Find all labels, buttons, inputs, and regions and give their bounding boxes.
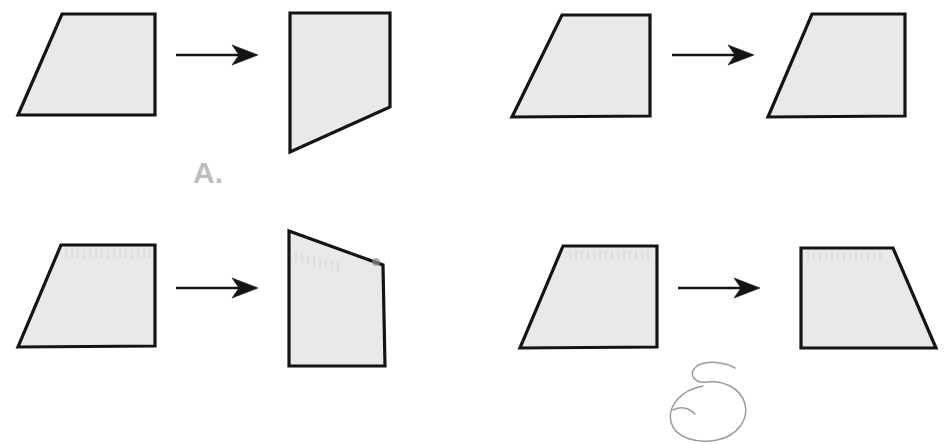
choice-d-arrow (678, 278, 760, 298)
choice-option-c[interactable]: C. (0, 222, 473, 444)
choice-option-b[interactable]: B. (473, 0, 946, 222)
choice-c-left-shape (18, 245, 155, 347)
choice-a-right-shape (290, 13, 390, 152)
choice-option-a[interactable]: A. (0, 0, 473, 222)
choice-d-figure (473, 222, 946, 444)
choice-c-right-shape (289, 231, 385, 366)
choice-c-arrow (176, 278, 258, 298)
choice-b-right-shape (768, 14, 905, 117)
choice-a-left-shape (18, 14, 155, 115)
choice-label-a: A. (193, 158, 223, 188)
choice-b-arrow (672, 45, 754, 65)
choice-d-right-shape (801, 248, 936, 348)
choice-b-left-shape (512, 15, 650, 117)
choice-a-figure (0, 0, 473, 222)
choice-b-figure (473, 0, 946, 222)
choice-d-left-shape (520, 246, 657, 348)
choice-c-figure (0, 222, 473, 444)
scan-blob-c (372, 258, 380, 266)
worksheet-page: A. B. (0, 0, 946, 444)
choice-a-arrow (176, 45, 258, 65)
choice-option-d[interactable]: D. (473, 222, 946, 444)
